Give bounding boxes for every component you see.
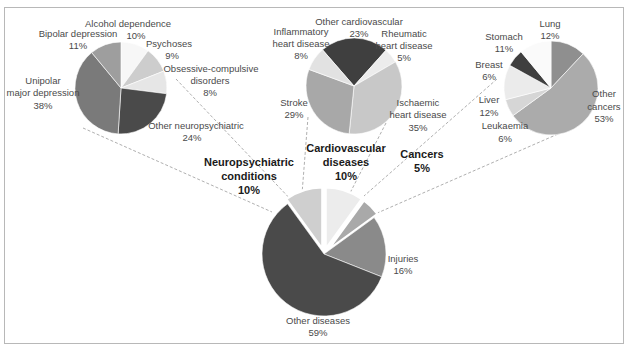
slice-label: Obsessive-compulsive [163, 63, 258, 74]
slice-label: Other diseases [286, 315, 350, 326]
pie-main [262, 187, 386, 316]
slice-label: 10% [126, 30, 146, 41]
slice-label: Injuries [388, 253, 419, 264]
group-label: Cancers [400, 148, 443, 160]
slice-label: 29% [284, 109, 304, 120]
slice-label: Stroke [280, 97, 307, 108]
pie-chart-figure: Alcohol dependence10%Bipolar depression1… [0, 0, 631, 348]
slice-label: disorders [190, 75, 229, 86]
slice-label: 35% [408, 122, 428, 133]
slice-label: Rheumatic [381, 28, 427, 39]
slice-label: heart disease [389, 109, 446, 120]
slice-label: 12% [540, 30, 560, 41]
slice-label: 12% [479, 107, 499, 118]
slice-label: Ischaemic [397, 97, 440, 108]
slice-label: Bipolar depression [39, 28, 118, 39]
group-label: 10% [335, 170, 357, 182]
slice-label: 9% [165, 50, 179, 61]
slice-label: 53% [594, 113, 614, 124]
group-label: diseases [323, 156, 369, 168]
slice-label: 23% [349, 28, 369, 39]
slice-label: 6% [482, 71, 496, 82]
slice-label: 16% [393, 265, 413, 276]
slice-label: Leukaemia [482, 120, 529, 131]
slice-label: Lung [539, 18, 560, 29]
slice-label: heart disease [272, 38, 329, 49]
group-label: Cardiovascular [306, 142, 386, 154]
slice-label: Stomach [485, 31, 523, 42]
slice-label: Unipolar [25, 75, 60, 86]
group-label: 5% [414, 162, 430, 174]
group-label: Neuropsychiatric [204, 156, 294, 168]
connector-line [302, 117, 308, 194]
group-label: conditions [221, 170, 277, 182]
slice-label: Psychoses [146, 38, 192, 49]
slice-label: 11% [69, 40, 88, 51]
slice-label: 8% [203, 87, 217, 98]
slice-label: Inflammatory [274, 26, 329, 37]
slice-label: Breast [475, 59, 503, 70]
slice-label: heart disease [375, 40, 432, 51]
slice-label: 59% [308, 327, 328, 338]
pie-cardiovascular [306, 38, 402, 134]
slice-label: Liver [479, 94, 500, 105]
slice-label: 38% [33, 100, 53, 111]
group-label: 10% [238, 184, 260, 196]
slice-label: 24% [182, 132, 202, 143]
slice-label: 6% [498, 133, 512, 144]
slice-label: 8% [294, 50, 308, 61]
slice-label: major depression [7, 87, 80, 98]
slice-label: Other neuropsychiatric [148, 120, 244, 131]
slice-label: cancers [587, 101, 621, 112]
group-labels: Neuropsychiatricconditions10%Cardiovascu… [204, 142, 444, 196]
slice-label: 5% [397, 52, 411, 63]
slice-label: Other [592, 88, 616, 99]
slice-label: 11% [495, 43, 514, 54]
connector-line [375, 134, 558, 214]
